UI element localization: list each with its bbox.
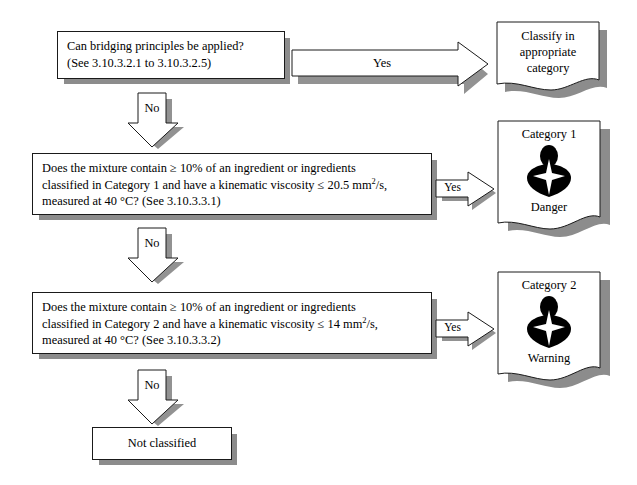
q3-line-2: classified in Category 2 and have a kine… (42, 316, 422, 333)
q3-line-3: measured at 40 °C? (See 3.10.3.3.2) (42, 332, 422, 349)
arrow-yes-to-category-1: Yes (436, 172, 498, 210)
terminal-box-not-classified: Not classified (92, 427, 232, 460)
q3-line-2-tail: /s, (367, 317, 378, 331)
classify-line-3: category (497, 60, 599, 76)
arrow-label-no-3: No (128, 379, 176, 391)
cat2-heading: Category 2 (498, 277, 600, 293)
cat1-signal-word: Danger (498, 199, 600, 215)
classify-line-2: appropriate (497, 44, 599, 60)
flowchart-canvas: Can bridging principles be applied? (See… (0, 0, 637, 485)
arrow-no-3: No (128, 370, 190, 428)
q1-line-2: (See 3.10.3.2.1 to 3.10.3.2.5) (67, 55, 275, 72)
q1-line-1: Can bridging principles be applied? (67, 38, 275, 55)
q2-line-1: Does the mixture contain ≥ 10% of an ing… (42, 160, 422, 177)
q2-line-2-text: classified in Category 1 and have a kine… (42, 178, 372, 192)
q2-line-2: classified in Category 1 and have a kine… (42, 177, 422, 194)
arrow-label-no-2: No (128, 237, 176, 249)
q2-line-3: measured at 40 °C? (See 3.10.3.3.1) (42, 193, 422, 210)
arrow-label-yes-cat2: Yes (437, 322, 468, 334)
outcome-classify-in-appropriate-category: Classify in appropriate category (497, 22, 617, 102)
q3-line-2-text: classified in Category 2 and have a kine… (42, 317, 362, 331)
classify-line-1: Classify in (497, 28, 599, 44)
arrow-yes-to-category-2: Yes (436, 312, 498, 350)
decision-box-category-2-criteria: Does the mixture contain ≥ 10% of an ing… (32, 292, 432, 354)
outcome-category-2: Category 2 Warning (498, 272, 620, 394)
arrow-label-yes-cat1: Yes (437, 182, 468, 194)
arrow-label-yes-top: Yes (332, 57, 432, 69)
arrow-label-no-1: No (128, 102, 176, 114)
outcome-category-1: Category 1 Danger (498, 121, 620, 243)
decision-box-category-1-criteria: Does the mixture contain ≥ 10% of an ing… (32, 153, 432, 215)
decision-box-bridging-principles: Can bridging principles be applied? (See… (57, 31, 285, 79)
health-hazard-pictogram-cat1 (525, 145, 573, 197)
q2-line-2-tail: /s, (376, 178, 387, 192)
health-hazard-pictogram-cat2 (525, 296, 573, 348)
not-classified-label: Not classified (128, 435, 196, 452)
cat2-signal-word: Warning (498, 350, 600, 366)
arrow-yes-to-classify: Yes (292, 42, 492, 86)
q3-line-1: Does the mixture contain ≥ 10% of an ing… (42, 299, 422, 316)
arrow-no-2: No (128, 228, 190, 286)
cat1-heading: Category 1 (498, 126, 600, 142)
arrow-no-1: No (128, 93, 190, 151)
